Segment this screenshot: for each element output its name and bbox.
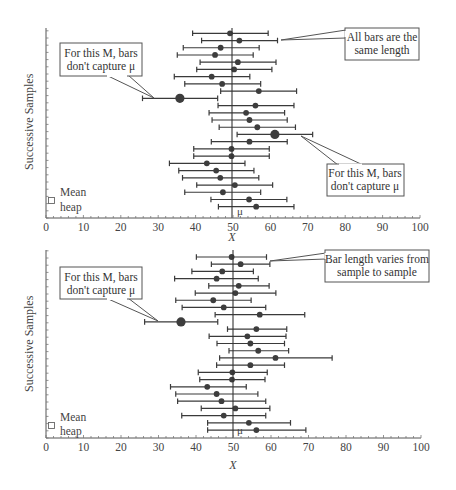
x-tick-label: 60 bbox=[265, 441, 277, 453]
ci-figure: μ 0102030405060708090100 X Successive Sa… bbox=[0, 0, 456, 490]
sample-error-bar bbox=[197, 67, 272, 73]
top-x-axis-title: X bbox=[227, 230, 236, 244]
sample-error-bar bbox=[183, 175, 259, 181]
sample-error-bar bbox=[182, 413, 266, 419]
x-tick-label: 0 bbox=[43, 441, 49, 453]
sample-error-bar bbox=[208, 427, 306, 433]
bottom-panel: μ 0102030405060708090100 X Successive Sa… bbox=[22, 250, 430, 472]
x-tick-label: 100 bbox=[411, 221, 429, 233]
sample-error-bar bbox=[209, 333, 286, 339]
bottom-callout-right-line1: Bar length varies from bbox=[325, 253, 429, 266]
x-tick-label: 80 bbox=[340, 441, 352, 453]
x-tick-label: 100 bbox=[412, 441, 430, 453]
top-callout-right-top-line1: All bars are the bbox=[347, 31, 418, 43]
sample-mean-dot bbox=[221, 305, 227, 311]
sample-error-bar bbox=[182, 305, 266, 311]
bottom-callout-left: For this M, bars don't capture μ bbox=[60, 267, 158, 321]
sample-error-bar bbox=[179, 168, 254, 174]
sample-mean-dot bbox=[238, 261, 244, 267]
bottom-x-axis-title: X bbox=[228, 458, 237, 472]
bottom-y-axis-title: Successive Samples bbox=[22, 295, 36, 392]
sample-mean-dot bbox=[209, 74, 215, 80]
sample-mean-dot bbox=[229, 369, 235, 375]
sample-mean-dot bbox=[175, 94, 184, 103]
sample-mean-dot bbox=[253, 427, 259, 433]
sample-mean-dot bbox=[210, 297, 216, 303]
x-tick-label: 30 bbox=[152, 221, 164, 233]
top-legend-line2: heap bbox=[60, 201, 82, 214]
x-tick-label: 70 bbox=[302, 221, 314, 233]
top-callout-right-bottom: For this M, bars don't capture μ bbox=[301, 136, 404, 196]
sample-mean-dot bbox=[255, 348, 261, 354]
sample-mean-dot bbox=[246, 197, 252, 203]
top-panel: μ 0102030405060708090100 X Successive Sa… bbox=[22, 28, 429, 244]
bottom-legend-line2: heap bbox=[60, 425, 82, 438]
sample-error-bar bbox=[183, 45, 259, 51]
bottom-legend-icon bbox=[49, 423, 55, 429]
sample-mean-dot bbox=[253, 326, 259, 332]
sample-error-bar bbox=[178, 398, 266, 404]
sample-mean-dot bbox=[244, 333, 250, 339]
sample-error-bar bbox=[201, 406, 270, 412]
sample-mean-dot bbox=[221, 413, 227, 419]
top-callout-left-line1: For this M, bars bbox=[64, 47, 138, 60]
x-tick-label: 90 bbox=[377, 221, 389, 233]
sample-error-bar bbox=[176, 297, 251, 303]
sample-error-bar bbox=[208, 420, 291, 426]
sample-error-bar bbox=[202, 38, 278, 44]
x-tick-label: 40 bbox=[190, 441, 202, 453]
sample-mean-dot bbox=[214, 276, 220, 282]
bottom-mu-label: μ bbox=[237, 424, 243, 436]
x-tick-label: 10 bbox=[78, 441, 90, 453]
sample-error-bar bbox=[195, 290, 276, 296]
sample-mean-dot bbox=[273, 355, 279, 361]
sample-error-bar bbox=[196, 254, 266, 260]
sample-mean-dot bbox=[246, 420, 252, 426]
sample-mean-dot bbox=[204, 384, 210, 390]
sample-error-bar bbox=[217, 341, 285, 347]
sample-mean-dot bbox=[270, 130, 279, 139]
sample-error-bar bbox=[217, 362, 285, 368]
sample-error-bar bbox=[177, 52, 253, 58]
sample-mean-dot bbox=[232, 182, 238, 188]
x-tick-label: 80 bbox=[339, 221, 351, 233]
top-callout-left-line2: don't capture μ bbox=[67, 60, 135, 73]
sample-mean-dot bbox=[247, 117, 253, 123]
x-tick-label: 20 bbox=[115, 221, 127, 233]
top-callout-right-top-line2: same length bbox=[354, 44, 409, 57]
bottom-error-bars bbox=[145, 254, 333, 433]
sample-mean-dot bbox=[257, 312, 263, 318]
sample-error-bar bbox=[212, 117, 287, 123]
bottom-callout-right-line2: sample to sample bbox=[337, 266, 417, 279]
sample-mean-dot bbox=[236, 38, 242, 44]
x-tick-label: 90 bbox=[378, 441, 390, 453]
x-tick-label: 20 bbox=[115, 441, 127, 453]
sample-mean-dot bbox=[247, 341, 253, 347]
sample-error-bar bbox=[169, 160, 245, 166]
sample-error-bar bbox=[175, 276, 259, 282]
sample-error-bar bbox=[220, 355, 333, 361]
bottom-callout-left-line1: For this M, bars bbox=[64, 271, 138, 284]
sample-error-bar bbox=[176, 391, 258, 397]
sample-error-bar bbox=[193, 30, 269, 36]
sample-mean-dot bbox=[214, 391, 220, 397]
x-tick-label: 30 bbox=[153, 441, 165, 453]
sample-error-bar bbox=[185, 81, 261, 87]
x-tick-label: 40 bbox=[190, 221, 202, 233]
sample-mean-dot bbox=[212, 52, 218, 58]
sample-error-bar bbox=[209, 110, 285, 116]
top-error-bars bbox=[142, 30, 312, 209]
sample-mean-dot bbox=[247, 362, 253, 368]
x-tick-label: 0 bbox=[43, 221, 49, 233]
sample-mean-dot bbox=[219, 398, 225, 404]
sample-mean-dot bbox=[247, 139, 253, 145]
sample-mean-dot bbox=[229, 254, 235, 260]
sample-error-bar bbox=[197, 182, 273, 188]
sample-error-bar bbox=[218, 204, 294, 210]
sample-error-bar bbox=[185, 189, 261, 195]
sample-error-bar bbox=[174, 74, 250, 80]
sample-mean-dot bbox=[176, 317, 185, 326]
sample-mean-dot bbox=[236, 283, 242, 289]
top-legend-line1: Mean bbox=[60, 186, 86, 198]
sample-mean-dot bbox=[219, 269, 225, 275]
